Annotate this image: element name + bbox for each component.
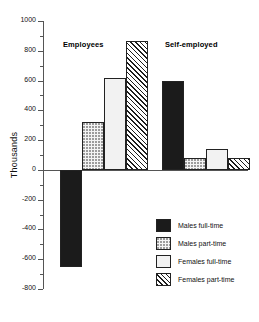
y-tick-minor	[40, 274, 43, 275]
y-tick-label: 400	[24, 105, 36, 112]
y-tick-minor	[40, 215, 43, 216]
legend: Males full-timeMales part-timeFemales fu…	[156, 216, 234, 288]
y-tick-major: 400	[38, 110, 43, 111]
bar	[184, 158, 206, 170]
y-tick-minor	[40, 185, 43, 186]
y-tick-major: -800	[38, 289, 43, 290]
bar	[228, 158, 250, 170]
y-tick-minor	[40, 66, 43, 67]
y-tick-label: -800	[22, 284, 36, 291]
legend-swatch-icon	[156, 237, 171, 250]
group-label-employees: Employees	[63, 40, 104, 49]
y-tick-label: -600	[22, 254, 36, 261]
y-tick-minor	[40, 155, 43, 156]
legend-swatch-icon	[156, 219, 171, 232]
bar	[206, 149, 228, 170]
y-tick-major: 200	[38, 140, 43, 141]
y-tick-label: 0	[32, 165, 36, 172]
y-tick-major: 1000	[38, 21, 43, 22]
legend-swatch-icon	[156, 273, 171, 286]
y-tick-major: -200	[38, 200, 43, 201]
legend-label: Females part-time	[178, 276, 234, 283]
legend-item: Females part-time	[156, 270, 234, 288]
legend-item: Males part-time	[156, 234, 234, 252]
y-tick-label: 600	[24, 76, 36, 83]
legend-label: Females full-time	[178, 258, 231, 265]
y-tick-minor	[40, 95, 43, 96]
y-tick-label: 200	[24, 135, 36, 142]
y-tick-major: 600	[38, 81, 43, 82]
bar	[126, 41, 148, 170]
group-label-self-employed: Self-employed	[165, 40, 218, 49]
legend-label: Males full-time	[178, 222, 223, 229]
y-tick-minor	[40, 244, 43, 245]
y-tick-minor	[40, 36, 43, 37]
bar	[104, 78, 126, 170]
bar	[162, 81, 184, 170]
bar	[60, 170, 82, 268]
y-axis-title: Thousands	[9, 110, 19, 200]
y-tick-label: 800	[24, 46, 36, 53]
y-tick-major: 0	[38, 170, 43, 171]
legend-label: Males part-time	[178, 240, 226, 247]
y-tick-major: -600	[38, 259, 43, 260]
y-tick-label: -400	[22, 224, 36, 231]
bar-chart: Thousands 10008006004002000-200-400-600-…	[0, 0, 259, 322]
y-tick-label: -200	[22, 195, 36, 202]
y-axis-line	[43, 21, 44, 289]
y-tick-major: 800	[38, 51, 43, 52]
legend-item: Males full-time	[156, 216, 234, 234]
y-tick-major: -400	[38, 229, 43, 230]
legend-item: Females full-time	[156, 252, 234, 270]
legend-swatch-icon	[156, 255, 171, 268]
bar	[82, 122, 104, 170]
y-tick-minor	[40, 125, 43, 126]
y-tick-label: 1000	[20, 16, 36, 23]
